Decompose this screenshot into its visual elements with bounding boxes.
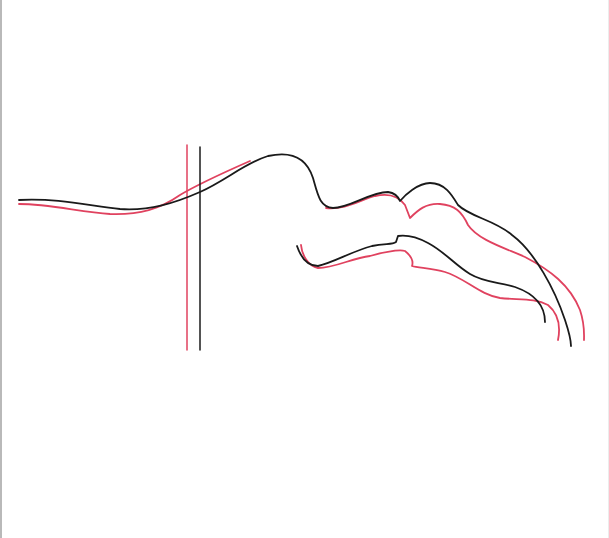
red-lower-profile bbox=[301, 245, 559, 340]
black-lower-profile bbox=[297, 236, 545, 322]
black-upper-profile bbox=[19, 154, 571, 346]
black-tracing bbox=[19, 147, 571, 350]
red-upper-profile-left bbox=[19, 161, 250, 214]
red-tracing bbox=[19, 145, 584, 350]
tracing-canvas bbox=[0, 0, 609, 538]
